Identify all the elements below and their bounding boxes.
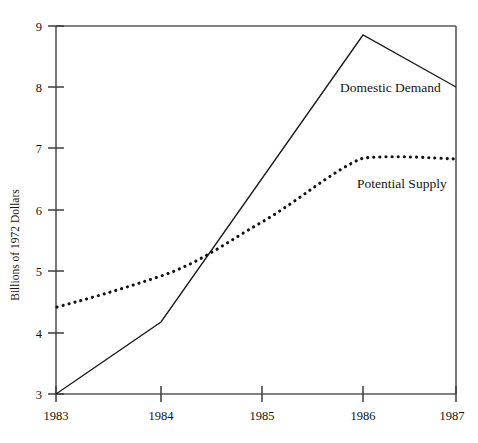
x-tick-label-1986: 1986 [351, 409, 376, 423]
x-tick-label-1983: 1983 [44, 409, 69, 423]
y-axis-title: Billions of 1972 Dollars [9, 189, 21, 301]
y-tick-label-7: 7 [36, 142, 42, 156]
y-tick-label-5: 5 [36, 265, 42, 279]
line-chart: 9 8 7 6 5 4 3 1983 1984 1985 1986 1987 B… [0, 0, 478, 443]
y-axis-tick-labels: 9 8 7 6 5 4 3 [36, 20, 43, 402]
x-tick-label-1984: 1984 [149, 409, 175, 423]
y-tick-label-4: 4 [36, 327, 43, 341]
chart-canvas: 9 8 7 6 5 4 3 1983 1984 1985 1986 1987 B… [0, 0, 478, 443]
y-tick-label-3: 3 [36, 388, 42, 402]
series-label-potential-supply: Potential Supply [357, 176, 447, 191]
x-tick-label-1985: 1985 [250, 409, 275, 423]
x-tick-label-1987: 1987 [440, 409, 465, 423]
y-tick-label-9: 9 [36, 20, 42, 34]
x-axis-tick-labels: 1983 1984 1985 1986 1987 [44, 409, 465, 423]
y-tick-label-8: 8 [36, 81, 42, 95]
series-label-domestic-demand: Domestic Demand [340, 80, 441, 95]
y-tick-label-6: 6 [36, 204, 42, 218]
